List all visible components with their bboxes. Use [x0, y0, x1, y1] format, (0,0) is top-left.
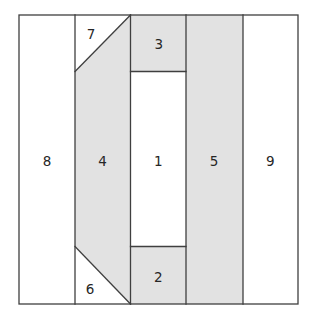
region-1-label: 1	[154, 153, 163, 169]
region-5-label: 5	[210, 153, 219, 169]
region-8-label: 8	[43, 153, 52, 169]
region-6-label: 6	[86, 281, 95, 297]
region-4-label: 4	[98, 153, 107, 169]
pieced-block-diagram: 1 2 3 4 5 6 7 8 9	[0, 0, 316, 319]
region-3-label: 3	[155, 36, 164, 52]
region-2-label: 2	[154, 269, 163, 285]
diagram-canvas: 1 2 3 4 5 6 7 8 9	[0, 0, 316, 319]
region-9-label: 9	[266, 153, 275, 169]
region-7-label: 7	[87, 26, 96, 42]
